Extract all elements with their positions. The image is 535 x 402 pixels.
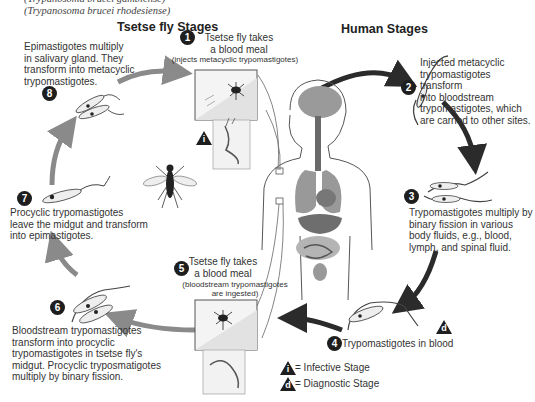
arrow-6-to-7	[55, 245, 77, 275]
stage-1-fly-bite-illustration	[195, 70, 257, 169]
arrow-1-to-2	[322, 73, 404, 88]
stage-5-title: Tsetse fly takes a blood meal	[178, 256, 268, 279]
stage-badge-1: 1	[180, 30, 195, 45]
arrow-3-to-4	[404, 251, 436, 305]
human-stages-title: Human Stages	[341, 22, 428, 36]
stage-badge-6: 6	[50, 300, 65, 315]
parasite-stage-4	[347, 302, 418, 330]
diagnostic-stage-marker: d	[436, 320, 452, 334]
stage-5-fly-bite-illustration	[195, 300, 257, 394]
stage-badge-8: 8	[42, 86, 57, 101]
species-subtitle-2: (Trypanosoma brucei rhodesiense)	[24, 5, 170, 17]
parasite-stage-8	[74, 93, 124, 122]
stage-badge-2: 2	[401, 80, 416, 95]
tsetse-fly-illustration	[142, 165, 197, 209]
legend-infective-label: = Infective Stage	[295, 362, 370, 373]
stage-badge-4: 4	[327, 336, 342, 351]
stage-6-description: Bloodstream trypomastigotes transform in…	[12, 325, 182, 383]
stage-badge-3: 3	[404, 189, 419, 204]
inset-connector-lines	[257, 75, 283, 338]
infective-stage-marker: i	[196, 131, 212, 145]
stage-7-description: Procyclic trypomastigotes leave the midg…	[10, 207, 160, 242]
parasite-stage-3	[424, 172, 492, 203]
stage-badge-7: 7	[17, 191, 32, 206]
stage-1-note: (injects metacyclic trypomastigotes)	[165, 55, 305, 64]
stage-5-note: (bloodstream trypomastigotes are ingeste…	[165, 280, 305, 298]
arrow-4-to-5	[292, 318, 342, 330]
stage-2-description: Injected metacyclic trypomastigotes tran…	[420, 57, 535, 126]
stage-1-title: Tsetse fly takes a blood meal	[194, 32, 284, 55]
stage-3-description: Trypomastigotes multiply by binary fissi…	[409, 207, 535, 253]
legend-infective-icon: i	[280, 361, 296, 375]
stage-8-description: Epimastigotes multiply in salivary gland…	[24, 41, 144, 87]
legend-diagnostic-icon: d	[280, 377, 296, 391]
stage-1-title-line2: a blood meal	[194, 44, 284, 56]
stage-4-description: Trypomastigotes in blood	[342, 338, 472, 350]
human-body-illustration	[262, 80, 372, 300]
legend: i = Infective Stage d = Diagnostic Stage	[280, 359, 420, 399]
legend-diagnostic-label: = Diagnostic Stage	[295, 378, 379, 389]
arrow-7-to-8	[52, 128, 68, 185]
stage-1-title-line1: Tsetse fly takes	[194, 32, 284, 44]
